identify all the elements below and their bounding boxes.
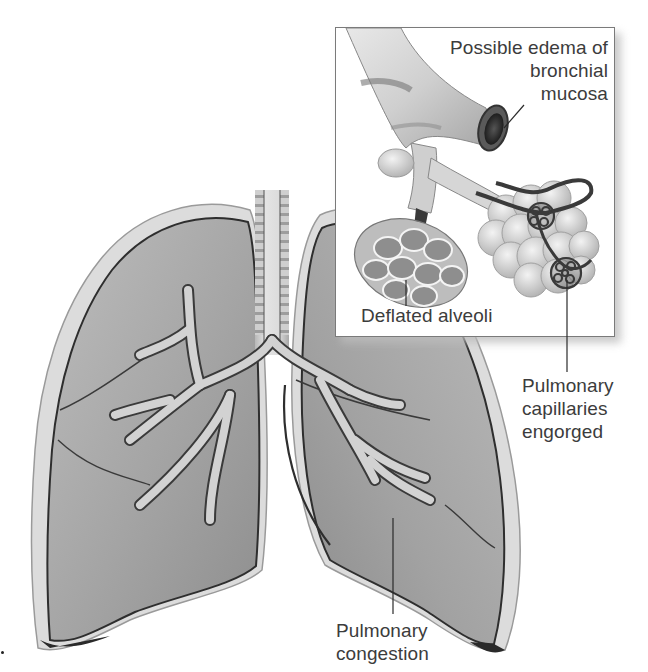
- label-line: capillaries: [522, 397, 614, 420]
- label-pulmonary-congestion: Pulmonary congestion: [336, 619, 429, 665]
- trachea: [255, 190, 289, 355]
- label-line: Pulmonary: [336, 619, 429, 642]
- label-deflated-alveoli: Deflated alveoli: [361, 304, 493, 327]
- label-pulmonary-capillaries: Pulmonary capillaries engorged: [522, 374, 614, 443]
- label-line: Possible edema of: [430, 36, 608, 59]
- label-line: bronchial: [430, 59, 608, 82]
- label-line: Pulmonary: [522, 374, 614, 397]
- label-bronchial-edema: Possible edema of bronchial mucosa: [430, 36, 608, 105]
- label-line: Deflated alveoli: [361, 304, 493, 327]
- stray-dot: [1, 651, 4, 654]
- label-line: mucosa: [430, 82, 608, 105]
- lung-diagram: Possible edema of bronchial mucosa Defla…: [0, 0, 648, 672]
- label-line: engorged: [522, 420, 614, 443]
- label-line: congestion: [336, 642, 429, 665]
